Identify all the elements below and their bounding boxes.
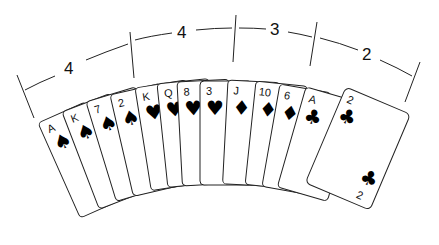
spades-count-label: 4 [64, 59, 73, 78]
bracket-divider-3 [310, 22, 317, 66]
hearts-count-label: 4 [177, 23, 186, 42]
bracket-divider-2 [233, 15, 236, 62]
bracket-arrow [320, 38, 358, 50]
bracket-arrow [380, 60, 412, 76]
bracket-arrow [135, 33, 172, 40]
diamonds-count-label: 3 [270, 20, 279, 39]
bracket-divider-4 [405, 62, 420, 102]
bridge-hand-diagram: 4 4 3 2 A ♠ K ♠ 7 ♠ 2 ♠ K ♥ Q ♥ 8 ♥ [0, 0, 439, 245]
bracket-arrow [288, 32, 312, 37]
bracket-arrow [25, 76, 55, 90]
bracket-divider-0 [17, 75, 34, 118]
bracket-arrow [86, 44, 128, 60]
bracket-divider-1 [130, 32, 134, 78]
diamond-icon: ♦ [232, 95, 251, 120]
bracket-arrow [196, 28, 232, 30]
bracket-arrow [239, 28, 266, 29]
clubs-count-label: 2 [362, 45, 371, 64]
heart-icon: ♥ [206, 96, 224, 120]
